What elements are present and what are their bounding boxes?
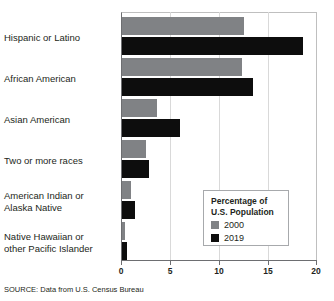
legend-label-2000: 2000	[224, 220, 244, 230]
bar-hispanic-or-latino-2019	[122, 37, 303, 55]
category-label-american-indian-or-alaska-native: American Indian or Alaska Native	[4, 190, 118, 213]
legend-item-2000: 2000	[211, 220, 288, 230]
category-label-asian-american: Asian American	[4, 114, 118, 126]
x-tick-label-20: 20	[301, 266, 331, 277]
x-tick-label-15: 15	[253, 266, 283, 277]
bar-hispanic-or-latino-2000	[122, 17, 244, 35]
bar-american-indian-or-alaska-native-2019	[122, 201, 135, 219]
legend-title: Percentage of U.S. Population	[211, 196, 287, 217]
category-label-line: Hispanic or Latino	[4, 32, 118, 44]
legend-label-2019: 2019	[224, 233, 244, 243]
legend-swatch-2019-icon	[211, 234, 219, 242]
bar-asian-american-2019	[122, 119, 180, 137]
tick-mark-20	[316, 261, 317, 265]
chart-title-cropped	[121, 0, 317, 4]
category-label-line: Two or more races	[4, 155, 118, 167]
bar-asian-american-2000	[122, 99, 157, 117]
category-label-african-american: African American	[4, 73, 118, 85]
bar-african-american-2019	[122, 78, 253, 96]
x-tick-label-10: 10	[204, 266, 234, 277]
tick-mark-0	[121, 261, 122, 265]
bar-two-or-more-races-2000	[122, 140, 146, 158]
category-label-line: Asian American	[4, 114, 118, 126]
category-label-line: African American	[4, 73, 118, 85]
tick-mark-10	[219, 261, 220, 265]
source-note: SOURCE: Data from U.S. Census Bureau	[4, 285, 144, 295]
category-label-line: American Indian or	[4, 190, 118, 202]
category-label-native-hawaiian-or-other-pacific-islander: Native Hawaiian or other Pacific Islande…	[4, 231, 118, 254]
bar-two-or-more-races-2019	[122, 160, 149, 178]
category-label-line: other Pacific Islander	[4, 243, 118, 255]
bar-native-hawaiian-or-other-pacific-islander-2019	[122, 242, 127, 260]
bar-chart-figure: 0 5 10 15 20 Hispanic or Latino African …	[0, 0, 334, 301]
category-label-two-or-more-races: Two or more races	[4, 155, 118, 167]
legend-item-2019: 2019	[211, 233, 288, 243]
tick-mark-15	[268, 261, 269, 265]
tick-mark-5	[170, 261, 171, 265]
category-label-line: Alaska Native	[4, 202, 118, 214]
x-tick-label-5: 5	[155, 266, 185, 277]
bar-african-american-2000	[122, 58, 242, 76]
bar-american-indian-or-alaska-native-2000	[122, 181, 131, 199]
legend-title-line: U.S. Population	[211, 207, 287, 218]
legend-swatch-2000-icon	[211, 221, 219, 229]
legend-title-line: Percentage of	[211, 196, 287, 207]
category-label-hispanic-or-latino: Hispanic or Latino	[4, 32, 118, 44]
chart-legend: Percentage of U.S. Population 2000 2019	[203, 190, 289, 246]
bar-native-hawaiian-or-other-pacific-islander-2000	[122, 222, 125, 240]
category-label-line: Native Hawaiian or	[4, 231, 118, 243]
x-tick-label-0: 0	[106, 266, 136, 277]
